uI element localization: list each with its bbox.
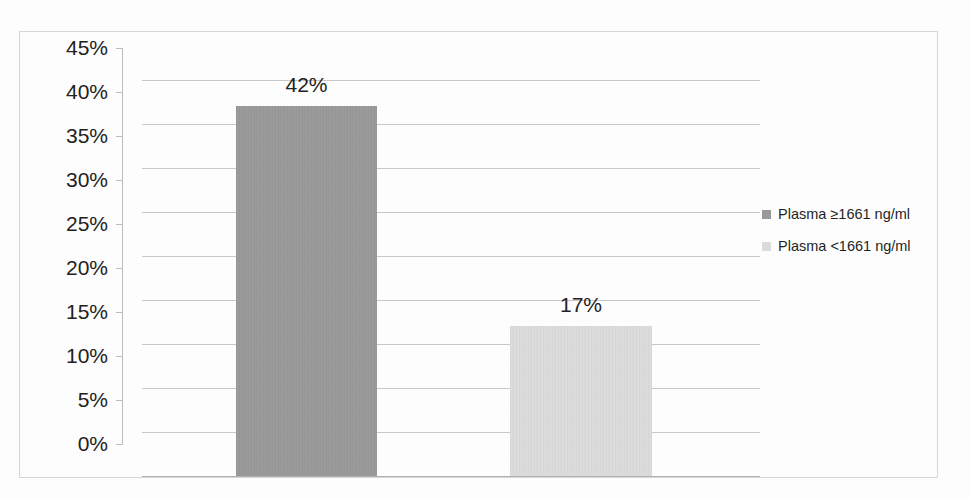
scanned-chart-page: 42%17% 45%40%35%30%25%20%15%10%5%0% Plas… [0,0,970,498]
gridline [142,124,760,125]
gridline [142,256,760,257]
legend-item-label: Plasma <1661 ng/ml [778,238,911,254]
gridline [142,432,760,433]
y-axis-tick-label: 25% [18,213,108,234]
y-axis-tick [116,312,122,313]
y-axis-tick-label: 45% [18,37,108,58]
y-axis-tick-label: 35% [18,125,108,146]
y-axis-labels: 45%40%35%30%25%20%15%10%5%0% [18,0,108,498]
gridline [142,300,760,301]
axis-baseline [142,476,760,477]
legend-item-plasma-low[interactable]: Plasma <1661 ng/ml [762,235,932,257]
y-axis-tick [116,180,122,181]
y-axis-tick-label: 0% [18,433,108,454]
y-axis-tick [116,356,122,357]
bar-value-label: 42% [236,74,377,95]
y-axis-tick [116,136,122,137]
gridline [142,168,760,169]
y-axis-line [122,48,123,445]
bar-plasma-low[interactable] [510,326,652,476]
gridline [142,212,760,213]
y-axis-tick-label: 20% [18,257,108,278]
legend-item-plasma-high[interactable]: Plasma ≥1661 ng/ml [762,203,932,225]
y-axis-tick-label: 10% [18,345,108,366]
legend-item-label: Plasma ≥1661 ng/ml [778,206,910,222]
y-axis-tick-label: 5% [18,389,108,410]
y-axis-tick [116,400,122,401]
y-axis-tick [116,48,122,49]
gridline [142,388,760,389]
bar-plasma-high[interactable] [236,106,377,476]
y-axis-tick-label: 15% [18,301,108,322]
plot-area: 42%17% [142,80,760,476]
bar-value-label: 17% [510,294,652,315]
y-axis-tick-label: 30% [18,169,108,190]
gridline [142,344,760,345]
y-axis-tick [116,92,122,93]
chart-legend: Plasma ≥1661 ng/ml Plasma <1661 ng/ml [762,203,932,267]
legend-swatch-dark-icon [762,210,771,219]
y-axis-tick [116,268,122,269]
gridline [142,80,760,81]
legend-swatch-light-icon [762,242,771,251]
y-axis-tick [116,224,122,225]
y-axis-tick-label: 40% [18,81,108,102]
y-axis-tick [116,444,122,445]
